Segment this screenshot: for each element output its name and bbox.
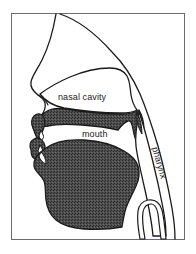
label-nasal-cavity: nasal cavity [58, 92, 107, 102]
label-mouth: mouth [82, 129, 108, 139]
vocal-tract-diagram: nasal cavity mouth pharynx [0, 0, 196, 254]
vocal-tract-figure: nasal cavity mouth pharynx [0, 0, 196, 254]
